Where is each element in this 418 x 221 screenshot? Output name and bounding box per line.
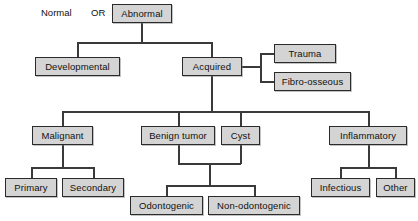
edge-to-benign-tumor — [178, 111, 180, 127]
edge-abnormal-acquired — [211, 42, 213, 58]
edge-acquired-right-bar — [260, 53, 262, 82]
node-other[interactable]: Other — [376, 178, 415, 197]
node-fibro-osseous[interactable]: Fibro-osseous — [274, 72, 351, 91]
node-benign-tumor[interactable]: Benign tumor — [141, 126, 215, 145]
node-trauma[interactable]: Trauma — [274, 44, 336, 63]
edge-benign-stem — [178, 144, 180, 164]
node-developmental[interactable]: Developmental — [35, 57, 120, 76]
edge-acquired-trauma — [260, 53, 275, 55]
edge-inflammatory-bar — [340, 167, 396, 169]
edge-cyst-stem — [240, 144, 242, 164]
node-infectious[interactable]: Infectious — [311, 178, 370, 197]
edge-acquired-fibro — [260, 81, 275, 83]
edge-malignant-stem — [62, 144, 64, 168]
edge-abnormal-bar — [77, 42, 213, 44]
edge-malignant-bar — [31, 167, 94, 169]
edge-to-inflammatory — [368, 111, 370, 127]
edge-inflammatory-stem — [368, 144, 370, 168]
edge-acquired-stem — [211, 75, 213, 112]
edge-to-cyst — [240, 111, 242, 127]
node-primary[interactable]: Primary — [5, 178, 57, 197]
node-malignant[interactable]: Malignant — [32, 126, 93, 145]
or-label: OR — [91, 5, 111, 21]
node-abnormal[interactable]: Abnormal — [112, 4, 172, 23]
node-inflammatory[interactable]: Inflammatory — [329, 126, 407, 145]
flowchart-canvas: Normal OR Abnormal Developmental Acquire… — [0, 0, 418, 221]
node-acquired[interactable]: Acquired — [182, 57, 242, 76]
edge-abnormal-developmental — [77, 42, 79, 58]
edge-cystic-bar — [166, 185, 255, 187]
node-non-odontogenic[interactable]: Non-odontogenic — [208, 196, 300, 215]
node-cyst[interactable]: Cyst — [221, 126, 260, 145]
node-odontogenic[interactable]: Odontogenic — [130, 196, 203, 215]
edge-to-malignant — [62, 111, 64, 127]
edge-abnormal-stem — [141, 22, 143, 43]
normal-label: Normal — [41, 5, 85, 21]
node-secondary[interactable]: Secondary — [62, 178, 124, 197]
edge-level3-bar — [62, 111, 369, 113]
edge-acquired-right-stem — [242, 66, 261, 68]
edge-merge-stem — [209, 163, 211, 186]
